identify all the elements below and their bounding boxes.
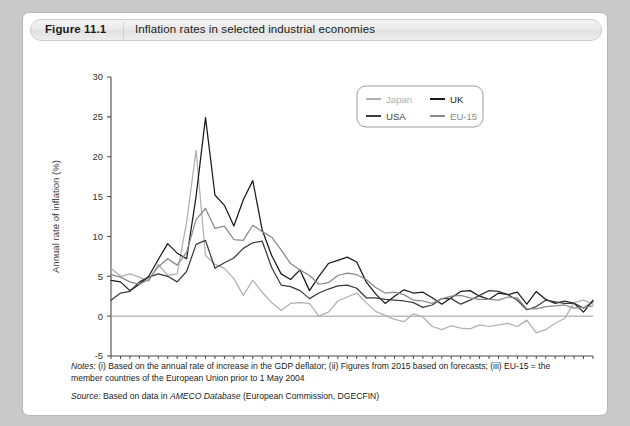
- figure-number: Figure 11.1: [45, 23, 106, 35]
- legend-label-usa: USA: [386, 111, 406, 122]
- data-series-group: [111, 118, 593, 333]
- figure-source: Source: Based on data in AMECO Database …: [71, 391, 593, 403]
- chart-legend: JapanUKUSAEU-15: [357, 86, 483, 127]
- legend-label-uk: UK: [450, 94, 464, 105]
- y-tick-label: 20: [93, 151, 103, 162]
- y-tick-label: 30: [93, 71, 103, 82]
- y-tick-label: 0: [98, 311, 103, 322]
- y-tick-label: 25: [93, 111, 103, 122]
- figure-panel: Figure 11.1 Inflation rates in selected …: [22, 12, 608, 416]
- series-line-japan: [111, 150, 593, 333]
- figure-title: Inflation rates in selected industrial e…: [135, 23, 375, 35]
- notes-line-1: Notes: (i) Based on the annual rate of i…: [71, 361, 593, 373]
- legend-label-japan: Japan: [386, 94, 412, 105]
- y-tick-label: 5: [98, 271, 103, 282]
- source-label: Source:: [71, 391, 101, 401]
- inflation-line-chart: -5051015202530 1965197019751980198519901…: [23, 41, 607, 359]
- series-line-usa: [111, 240, 593, 309]
- y-tick-label: -5: [95, 350, 103, 359]
- legend-label-eu-15: EU-15: [450, 111, 477, 122]
- header-divider: [123, 22, 124, 40]
- notes-line-2: member countries of the European Union p…: [71, 373, 593, 385]
- y-axis-title-text: Annual rate of inflation (%): [50, 160, 61, 273]
- y-tick-label: 10: [93, 231, 103, 242]
- figure-notes: Notes: (i) Based on the annual rate of i…: [71, 361, 593, 403]
- y-axis: -5051015202530: [93, 71, 111, 359]
- source-text-post: (European Commission, DGECFIN): [241, 391, 380, 401]
- notes-text-2: member countries of the European Union p…: [71, 373, 305, 383]
- figure-header-bar: Figure 11.1 Inflation rates in selected …: [30, 19, 602, 41]
- notes-label: Notes:: [71, 361, 96, 371]
- source-text-pre: Based on data in: [101, 391, 170, 401]
- source-database-name: AMECO Database: [170, 391, 241, 401]
- y-tick-label: 15: [93, 191, 103, 202]
- series-line-eu-15: [111, 209, 593, 309]
- series-line-uk: [111, 118, 593, 313]
- notes-text-1: (i) Based on the annual rate of increase…: [96, 361, 550, 371]
- chart-plot-area: -5051015202530 1965197019751980198519901…: [23, 41, 607, 359]
- y-axis-title: Annual rate of inflation (%): [50, 160, 61, 273]
- x-axis: 1965197019751980198519901995200020052010…: [101, 356, 594, 359]
